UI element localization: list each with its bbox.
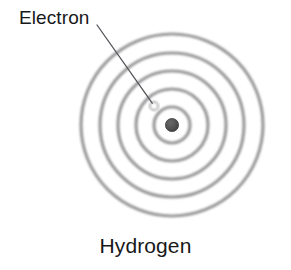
figure-background <box>0 0 291 270</box>
electron-label: Electron <box>19 7 90 29</box>
hydrogen-atom-figure: Electron Hydrogen <box>0 0 291 270</box>
nucleus-icon <box>165 118 178 131</box>
figure-caption: Hydrogen <box>0 233 291 258</box>
atom-diagram-svg <box>0 0 291 270</box>
electron-icon <box>150 102 158 110</box>
